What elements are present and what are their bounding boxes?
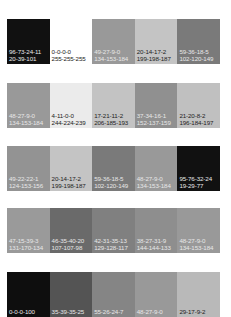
rgb-value: 144-144-133 — [137, 244, 171, 251]
color-swatch: 17-21-11-2206-185-193 — [92, 83, 135, 128]
swatch-label: 59-36-18-5102-120-149 — [179, 48, 213, 62]
swatch-label: 96-73-24-1120-39-101 — [9, 48, 41, 62]
swatch-label: 48-27-9-0 — [137, 308, 163, 315]
cmyk-value: 29-17-9-2 — [179, 308, 205, 315]
swatch-label: 38-27-31-9144-144-133 — [137, 237, 171, 251]
swatch-label: 35-39-35-25 — [52, 308, 85, 315]
swatch-label: 49-27-9-0134-153-184 — [94, 48, 128, 62]
rgb-value: 134-153-184 — [137, 182, 171, 189]
cmyk-value: 49-22-22-1 — [9, 175, 43, 182]
color-swatch: 59-36-18-5102-120-149 — [177, 19, 220, 64]
color-swatch: 0-0-0-0255-255-255 — [50, 19, 93, 64]
cmyk-value: 59-36-18-5 — [94, 175, 128, 182]
swatch-label: 37-34-16-1152-137-159 — [137, 112, 171, 126]
color-swatch: 95-76-32-2419-29-77 — [177, 146, 220, 191]
rgb-value: 129-128-117 — [94, 244, 128, 251]
color-swatch: 4-11-0-0244-224-239 — [50, 83, 93, 128]
swatch-label: 46-35-40-20107-107-98 — [52, 237, 85, 251]
swatch-label: 59-36-18-5102-120-149 — [94, 175, 128, 189]
swatch-label: 42-31-35-13129-128-117 — [94, 237, 128, 251]
cmyk-value: 38-27-31-9 — [137, 237, 171, 244]
rgb-value: 244-224-239 — [52, 119, 86, 126]
cmyk-value: 48-27-9-0 — [137, 175, 171, 182]
swatch-label: 48-27-9-0134-153-184 — [179, 237, 213, 251]
swatch-label: 0-0-0-0255-255-255 — [52, 48, 86, 62]
swatch-label: 55-26-24-7 — [94, 308, 123, 315]
rgb-value: 134-153-184 — [179, 244, 213, 251]
swatch-row: 48-27-9-0134-153-1844-11-0-0244-224-2391… — [7, 83, 220, 128]
swatch-label: 20-14-17-2199-198-187 — [52, 175, 86, 189]
cmyk-value: 0-0-0-100 — [9, 308, 35, 315]
rgb-value: 206-185-193 — [94, 119, 128, 126]
color-swatch: 48-27-9-0134-153-184 — [7, 83, 50, 128]
cmyk-value: 48-27-9-0 — [137, 308, 163, 315]
color-swatch: 46-35-40-20107-107-98 — [50, 208, 93, 253]
cmyk-value: 0-0-0-0 — [52, 48, 86, 55]
swatch-row: 96-73-24-1120-39-1010-0-0-0255-255-25549… — [7, 19, 220, 64]
rgb-value: 107-107-98 — [52, 244, 85, 251]
cmyk-value: 48-27-9-0 — [179, 237, 213, 244]
cmyk-value: 47-15-39-3 — [9, 237, 43, 244]
color-swatch: 20-14-17-2199-198-187 — [50, 146, 93, 191]
color-swatch: 59-36-18-5102-120-149 — [92, 146, 135, 191]
color-swatch: 48-27-9-0134-153-184 — [177, 208, 220, 253]
cmyk-value: 17-21-11-2 — [94, 112, 128, 119]
swatch-label: 48-27-9-0134-153-184 — [9, 112, 43, 126]
color-swatch: 21-20-8-2196-184-197 — [177, 83, 220, 128]
swatch-label: 20-14-17-2199-198-187 — [137, 48, 171, 62]
rgb-value: 199-198-187 — [52, 182, 86, 189]
cmyk-value: 4-11-0-0 — [52, 112, 86, 119]
color-swatch: 0-0-0-100 — [7, 272, 50, 317]
color-swatch: 47-15-39-3131-170-134 — [7, 208, 50, 253]
swatch-row: 49-22-22-1124-153-15620-14-17-2199-198-1… — [7, 146, 220, 191]
cmyk-value: 48-27-9-0 — [9, 112, 43, 119]
rgb-value: 255-255-255 — [52, 55, 86, 62]
cmyk-value: 20-14-17-2 — [137, 48, 171, 55]
color-swatch: 29-17-9-2 — [177, 272, 220, 317]
swatch-row: 0-0-0-10035-39-35-2555-26-24-748-27-9-02… — [7, 272, 220, 317]
swatch-label: 47-15-39-3131-170-134 — [9, 237, 43, 251]
rgb-value: 102-120-149 — [179, 55, 213, 62]
cmyk-value: 35-39-35-25 — [52, 308, 85, 315]
swatch-label: 0-0-0-100 — [9, 308, 35, 315]
cmyk-value: 21-20-8-2 — [179, 112, 213, 119]
color-swatch: 49-22-22-1124-153-156 — [7, 146, 50, 191]
rgb-value: 131-170-134 — [9, 244, 43, 251]
rgb-value: 199-198-187 — [137, 55, 171, 62]
color-swatch: 48-27-9-0 — [135, 272, 178, 317]
swatch-label: 48-27-9-0134-153-184 — [137, 175, 171, 189]
color-swatch: 48-27-9-0134-153-184 — [135, 146, 178, 191]
swatch-label: 29-17-9-2 — [179, 308, 205, 315]
cmyk-value: 20-14-17-2 — [52, 175, 86, 182]
color-swatch: 55-26-24-7 — [92, 272, 135, 317]
cmyk-value: 95-76-32-24 — [179, 175, 212, 182]
rgb-value: 20-39-101 — [9, 55, 41, 62]
swatch-label: 49-22-22-1124-153-156 — [9, 175, 43, 189]
cmyk-value: 46-35-40-20 — [52, 237, 85, 244]
rgb-value: 19-29-77 — [179, 182, 212, 189]
color-swatch: 20-14-17-2199-198-187 — [135, 19, 178, 64]
color-swatch: 49-27-9-0134-153-184 — [92, 19, 135, 64]
swatch-row: 47-15-39-3131-170-13446-35-40-20107-107-… — [7, 208, 220, 253]
cmyk-value: 55-26-24-7 — [94, 308, 123, 315]
rgb-value: 134-153-184 — [94, 55, 128, 62]
color-swatch: 96-73-24-1120-39-101 — [7, 19, 50, 64]
color-swatch: 35-39-35-25 — [50, 272, 93, 317]
cmyk-value: 96-73-24-11 — [9, 48, 41, 55]
swatch-label: 95-76-32-2419-29-77 — [179, 175, 212, 189]
swatch-label: 21-20-8-2196-184-197 — [179, 112, 213, 126]
color-swatch: 38-27-31-9144-144-133 — [135, 208, 178, 253]
swatch-label: 17-21-11-2206-185-193 — [94, 112, 128, 126]
rgb-value: 152-137-159 — [137, 119, 171, 126]
color-swatch: 42-31-35-13129-128-117 — [92, 208, 135, 253]
color-swatch: 37-34-16-1152-137-159 — [135, 83, 178, 128]
cmyk-value: 37-34-16-1 — [137, 112, 171, 119]
cmyk-value: 59-36-18-5 — [179, 48, 213, 55]
rgb-value: 124-153-156 — [9, 182, 43, 189]
swatch-label: 4-11-0-0244-224-239 — [52, 112, 86, 126]
cmyk-value: 42-31-35-13 — [94, 237, 128, 244]
rgb-value: 102-120-149 — [94, 182, 128, 189]
rgb-value: 196-184-197 — [179, 119, 213, 126]
cmyk-value: 49-27-9-0 — [94, 48, 128, 55]
rgb-value: 134-153-184 — [9, 119, 43, 126]
